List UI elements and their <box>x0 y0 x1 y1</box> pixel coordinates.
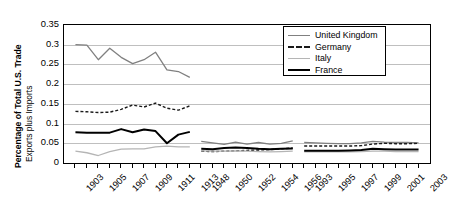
x-tick-label: 1997 <box>359 172 381 194</box>
x-tick <box>257 164 258 168</box>
x-tick <box>189 164 190 168</box>
x-tick-label: 1909 <box>153 172 175 194</box>
series-line <box>201 148 293 150</box>
x-tick-label: 1952 <box>256 172 278 194</box>
x-tick <box>235 164 236 168</box>
x-tick-label: 1950 <box>233 172 255 194</box>
x-tick <box>200 164 201 168</box>
y-tick-label: 0.05 <box>25 137 59 146</box>
x-tick <box>360 164 361 168</box>
legend-item[interactable]: Germany <box>288 42 381 53</box>
x-tick <box>418 164 419 168</box>
x-tick <box>120 164 121 168</box>
x-tick-label: 1905 <box>107 172 129 194</box>
x-tick-label: 2001 <box>405 172 427 194</box>
x-tick <box>143 164 144 168</box>
x-tick <box>326 164 327 168</box>
series-line <box>201 141 293 145</box>
x-tick-label: 1903 <box>84 172 106 194</box>
series-line <box>75 45 189 78</box>
legend-label: France <box>315 65 342 76</box>
y-tick-label: 0 <box>25 157 59 166</box>
x-tick <box>155 164 156 168</box>
y-tick-label: 0.2 <box>25 78 59 87</box>
x-tick-label: 2003 <box>428 172 449 194</box>
y-tick-label: 0.1 <box>25 118 59 127</box>
x-tick-label: 1907 <box>130 172 152 194</box>
x-tick-label: 1954 <box>279 172 301 194</box>
legend-item[interactable]: Italy <box>288 53 381 64</box>
legend-label: United Kingdom <box>315 30 378 41</box>
x-tick <box>315 164 316 168</box>
x-tick <box>166 164 167 168</box>
legend-label: Germany <box>315 42 351 53</box>
x-tick <box>223 164 224 168</box>
x-tick <box>280 164 281 168</box>
x-tick <box>406 164 407 168</box>
legend-item[interactable]: United Kingdom <box>288 30 381 41</box>
x-tick <box>212 164 213 168</box>
series-line <box>201 151 293 152</box>
y-tick-label: 0.3 <box>25 39 59 48</box>
x-tick <box>395 164 396 168</box>
x-tick <box>269 164 270 168</box>
x-axis-tick-labels: 1903190519071909191119131948195019521954… <box>0 170 440 210</box>
series-line <box>75 129 189 143</box>
x-tick <box>338 164 339 168</box>
legend-item[interactable]: France <box>288 65 381 76</box>
x-tick <box>74 164 75 168</box>
y-axis-tick-labels: 0.350.30.250.20.150.10.050 <box>25 0 59 175</box>
legend-label: Italy <box>315 53 331 64</box>
x-tick <box>349 164 350 168</box>
x-tick <box>97 164 98 168</box>
x-tick-label: 1911 <box>176 172 197 193</box>
chart-legend: United KingdomGermanyItalyFrance <box>283 26 386 76</box>
x-tick <box>246 164 247 168</box>
x-tick <box>383 164 384 168</box>
x-tick <box>86 164 87 168</box>
x-tick <box>372 164 373 168</box>
series-line <box>75 103 189 112</box>
y-axis-title-line1: Percentage of Total U.S. Trade <box>13 44 23 168</box>
series-line <box>75 146 189 155</box>
x-tick <box>303 164 304 168</box>
series-line <box>304 149 418 151</box>
x-tick <box>292 164 293 168</box>
y-tick-label: 0.25 <box>25 58 59 67</box>
y-tick-label: 0.35 <box>25 19 59 28</box>
x-tick <box>177 164 178 168</box>
x-tick-label: 1999 <box>382 172 404 194</box>
x-tick <box>132 164 133 168</box>
x-tick-label: 1995 <box>336 172 358 194</box>
y-tick-label: 0.15 <box>25 98 59 107</box>
x-tick <box>109 164 110 168</box>
